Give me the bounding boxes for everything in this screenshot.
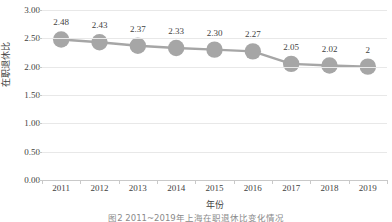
x-axis-tick-label: 2012	[80, 184, 120, 193]
x-axis-tick-label: 2019	[348, 184, 388, 193]
data-point-marker	[245, 43, 261, 59]
x-axis-title: 年份	[42, 200, 387, 210]
x-axis-tick-labels: 201120122013201420152016201720182019	[42, 184, 387, 196]
data-point-marker	[283, 56, 299, 72]
data-point-label: 2.30	[198, 29, 232, 38]
x-axis-tick-label: 2016	[233, 184, 273, 193]
y-axis-tick-mark	[39, 95, 42, 96]
chart-figure: 在职退休比 0.000.501.001.502.002.503.00 2.482…	[0, 0, 392, 222]
x-axis-tick-label: 2017	[271, 184, 311, 193]
data-point-label: 2.33	[159, 27, 193, 36]
data-point-label: 2.48	[44, 18, 78, 27]
data-point-marker	[91, 34, 107, 50]
x-axis-tick-label: 2014	[156, 184, 196, 193]
y-axis-tick-mark	[39, 10, 42, 11]
gridline	[42, 95, 387, 96]
data-point-label: 2.27	[236, 30, 270, 39]
data-point-label: 2.02	[313, 45, 347, 54]
y-axis-tick-mark	[39, 123, 42, 124]
data-point-label: 2.43	[83, 21, 117, 30]
gridline	[42, 38, 387, 39]
x-axis-line	[42, 180, 387, 181]
data-point-marker	[53, 31, 69, 47]
y-axis-tick-label: 2.50	[10, 34, 40, 43]
y-axis-tick-label: 2.00	[10, 63, 40, 72]
data-point-marker	[168, 40, 184, 56]
y-axis-tick-label: 0.50	[10, 148, 40, 157]
data-point-label: 2	[351, 46, 385, 55]
y-axis-tick-mark	[39, 67, 42, 68]
y-axis-tick-label: 1.50	[10, 91, 40, 100]
x-axis-tick-label: 2013	[118, 184, 158, 193]
x-axis-tick-label: 2018	[310, 184, 350, 193]
figure-caption: 图2 2011~2019年上海在职退休比变化情况	[0, 213, 392, 222]
data-point-marker	[130, 38, 146, 54]
data-point-label: 2.37	[121, 25, 155, 34]
gridline	[42, 10, 387, 11]
data-point-label: 2.05	[274, 43, 308, 52]
y-axis-tick-labels: 0.000.501.001.502.002.503.00	[10, 0, 40, 222]
data-point-marker	[206, 41, 222, 57]
y-axis-tick-label: 3.00	[10, 6, 40, 15]
y-axis-tick-label: 1.00	[10, 119, 40, 128]
y-axis-tick-label: 0.00	[10, 176, 40, 185]
x-axis-tick-label: 2015	[195, 184, 235, 193]
gridline	[42, 152, 387, 153]
y-axis-tick-mark	[39, 152, 42, 153]
y-axis-tick-mark	[39, 38, 42, 39]
gridline	[42, 67, 387, 68]
x-axis-tick-label: 2011	[41, 184, 81, 193]
data-point-marker	[321, 57, 337, 73]
gridline	[42, 123, 387, 124]
plot-area: 2.482.432.372.332.302.272.052.022	[42, 10, 387, 180]
